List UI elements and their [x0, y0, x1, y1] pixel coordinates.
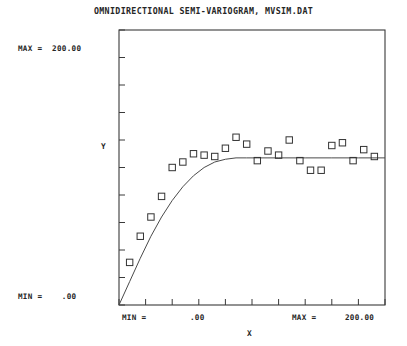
variogram-plot-window: OMNIDIRECTIONAL SEMI-VARIOGRAM, MVSIM.DA… — [0, 0, 407, 346]
fitted-model-curve — [119, 158, 385, 305]
y-axis-ticks — [119, 30, 125, 305]
x-axis-ticks — [119, 299, 385, 305]
data-point-markers — [126, 134, 377, 266]
plot-frame — [119, 30, 385, 305]
variogram-chart — [0, 0, 407, 346]
